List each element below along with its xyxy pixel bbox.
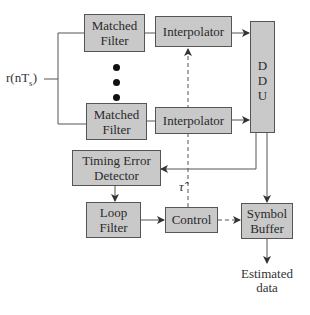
ddu-letter-1: D [258,58,267,73]
matched-filter-2: Matched Filter [86,103,147,140]
ddu-block: D D U [250,21,275,133]
ellipsis-dot-2 [113,79,120,86]
control-block: Control [165,207,218,233]
mf2-line1: Matched [94,107,139,122]
control-label: Control [172,213,212,227]
timing-error-detector: Timing Error Detector [72,150,161,186]
output-line2: data [256,281,278,295]
output-line1: Estimated [241,267,293,281]
mf1-line1: Matched [92,18,137,33]
tau-hat-text: τ̂ [179,179,184,194]
loop-filter: Loop Filter [86,202,141,238]
sb-line2: Buffer [250,221,284,236]
interpolator-2: Interpolator [155,107,232,134]
interpolator-1: Interpolator [155,16,232,47]
ddu-letter-2: D [258,73,267,88]
matched-filter-1: Matched Filter [84,14,145,52]
ddu-letter-3: U [258,88,267,103]
input-signal-label: r(nTs) [6,71,37,90]
input-close: ) [33,70,37,85]
lf-line2: Filter [99,220,127,235]
sb-line1: Symbol [247,206,287,221]
mf1-line2: Filter [100,33,128,48]
input-label-text: r(nT [6,70,29,85]
interp2-label: Interpolator [163,114,224,128]
ellipsis-dot-1 [113,64,120,71]
mf2-line2: Filter [102,122,130,137]
symbol-buffer: Symbol Buffer [241,203,293,239]
ted-line2: Detector [94,168,139,183]
output-label: Estimated data [241,267,293,295]
ted-line1: Timing Error [82,153,151,168]
tau-hat-label: τ̂ [179,180,184,194]
interp1-label: Interpolator [163,25,224,39]
ellipsis-dot-3 [113,94,120,101]
lf-line1: Loop [100,205,127,220]
